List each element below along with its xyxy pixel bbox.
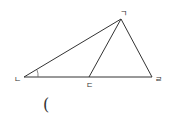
triangle-diagram: ㄱ ㄴ ㄷ ㄹ ( xyxy=(0,0,180,120)
label-giyeok: ㄱ xyxy=(120,9,127,18)
angle-arc-nieun xyxy=(37,70,38,77)
segment-giyeok-rieul xyxy=(121,19,152,77)
segment-giyeok-nieun xyxy=(24,19,121,77)
label-nieun: ㄴ xyxy=(14,75,21,84)
label-rieul: ㄹ xyxy=(155,75,162,84)
answer-blank-paren: ( xyxy=(43,95,49,114)
label-digeut: ㄷ xyxy=(86,81,93,90)
segment-giyeok-digeut xyxy=(89,19,121,77)
